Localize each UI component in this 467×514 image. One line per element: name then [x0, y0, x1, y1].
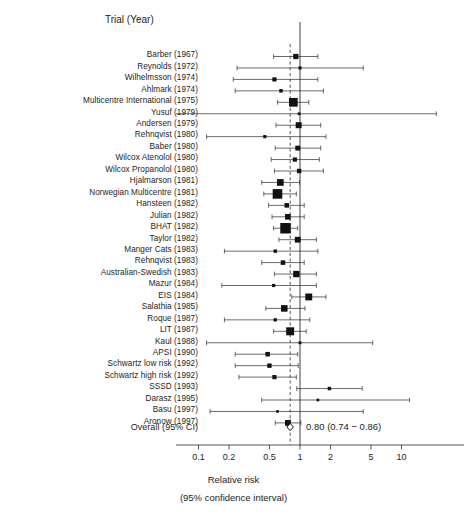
- forest-row: [224, 249, 317, 254]
- forest-row: [262, 260, 304, 265]
- forest-row: [274, 169, 323, 174]
- x-axis-title: Relative risk: [0, 474, 467, 485]
- effect-size-marker: [274, 249, 277, 252]
- forest-row: [239, 375, 296, 380]
- effect-size-marker: [265, 352, 270, 357]
- forest-plot: Trial (Year) Barber (1967)Reynolds (1972…: [0, 0, 467, 514]
- forest-row: [292, 294, 326, 301]
- forest-row: [233, 77, 318, 82]
- effect-size-marker: [273, 189, 283, 199]
- forest-row: [275, 420, 301, 426]
- forest-row: [279, 237, 316, 243]
- forest-row: [262, 398, 410, 403]
- effect-size-marker: [263, 135, 266, 138]
- effect-size-marker: [293, 271, 299, 277]
- effect-size-marker: [298, 112, 301, 115]
- forest-row: [235, 88, 323, 93]
- effect-size-marker: [299, 341, 302, 344]
- forest-row: [235, 363, 298, 368]
- forest-row: [274, 54, 318, 59]
- effect-size-marker: [272, 375, 276, 379]
- forest-row: [222, 283, 316, 288]
- forest-row: [274, 271, 316, 277]
- forest-row: [277, 98, 308, 107]
- forest-row: [207, 134, 326, 139]
- effect-size-marker: [293, 157, 297, 161]
- effect-size-marker: [276, 410, 279, 413]
- effect-size-marker: [281, 260, 286, 265]
- forest-plot-canvas: [0, 0, 467, 514]
- forest-row: [176, 111, 436, 116]
- effect-size-marker: [277, 179, 284, 186]
- effect-size-marker: [281, 305, 288, 312]
- forest-row: [274, 327, 307, 335]
- effect-size-marker: [297, 169, 301, 173]
- effect-size-marker: [295, 237, 301, 243]
- effect-size-marker: [298, 66, 301, 69]
- effect-size-marker: [285, 214, 291, 220]
- overall-estimate-text: 0.80 (0.74 − 0.86): [306, 421, 381, 432]
- effect-size-marker: [267, 363, 271, 367]
- effect-size-marker: [317, 399, 320, 402]
- forest-row: [272, 214, 304, 220]
- forest-row: [276, 122, 321, 128]
- effect-size-marker: [296, 122, 302, 128]
- effect-size-marker: [328, 387, 331, 390]
- effect-size-marker: [272, 77, 276, 81]
- effect-size-marker: [280, 223, 290, 233]
- forest-row: [264, 189, 297, 199]
- effect-size-marker: [279, 89, 282, 92]
- effect-size-marker: [295, 146, 300, 151]
- forest-row: [269, 203, 305, 208]
- forest-row: [262, 179, 300, 186]
- x-axis-subtitle: (95% confidence interval): [0, 492, 467, 503]
- x-axis-tick-label: 0.2: [209, 452, 249, 462]
- x-axis-tick-label: 2: [311, 452, 351, 462]
- effect-size-marker: [274, 318, 277, 321]
- effect-size-marker: [284, 203, 289, 208]
- forest-row: [235, 352, 298, 357]
- x-axis-tick-label: 10: [382, 452, 422, 462]
- forest-row: [266, 305, 305, 312]
- forest-row: [210, 409, 363, 414]
- forest-row: [274, 223, 298, 233]
- forest-row: [271, 157, 319, 162]
- effect-size-marker: [305, 294, 312, 301]
- forest-row: [297, 386, 362, 391]
- forest-row: [224, 317, 309, 322]
- effect-size-marker: [293, 54, 298, 59]
- effect-size-marker: [272, 284, 275, 287]
- forest-row: [207, 340, 373, 345]
- effect-size-marker: [289, 98, 298, 107]
- effect-size-marker: [286, 327, 294, 335]
- forest-row: [275, 146, 320, 151]
